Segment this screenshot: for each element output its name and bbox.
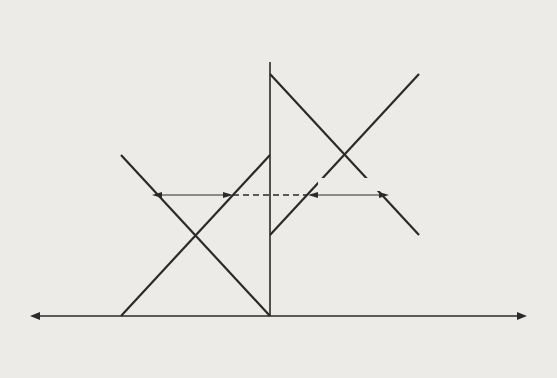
trade-chart: [0, 0, 557, 378]
x-axis-right-arrow-icon: [517, 312, 527, 320]
x-axis-left-arrow-icon: [30, 312, 40, 320]
